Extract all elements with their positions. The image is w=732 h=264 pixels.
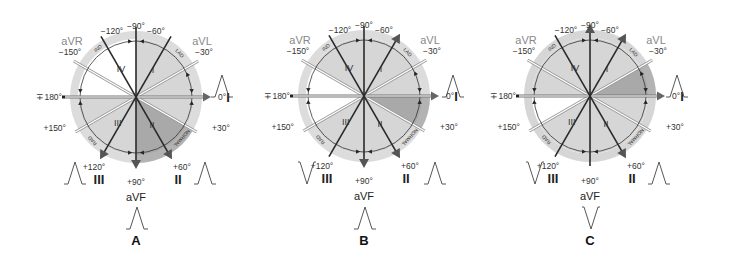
lead-label-iii: III [322, 171, 333, 186]
qrs-waveform-ii [648, 162, 670, 184]
lead-label-iii: III [94, 172, 105, 187]
qrs-waveform-ii [424, 162, 446, 184]
quadrant-label-ii: II [603, 119, 608, 129]
lead-label-avr: aVR [61, 35, 82, 47]
angle-label: −150° [59, 47, 82, 57]
quadrant-label-iii: III [342, 117, 350, 127]
panel-c: IVIIIIIIINDLADRADNORMAL−90°−60°−120°−30°… [490, 20, 688, 248]
lead-i-arrowhead [657, 92, 665, 101]
angle-label: −30° [649, 46, 667, 56]
angle-label: +120° [83, 162, 106, 172]
lead-i-arrowhead [203, 93, 211, 102]
panel-letter-b: B [359, 233, 368, 248]
qrs-waveform-ii [194, 162, 216, 184]
angle-label: −30° [423, 46, 441, 56]
angle-label: +90° [127, 177, 145, 187]
lead-label-i: I [226, 90, 230, 105]
angle-label: +60° [173, 162, 191, 172]
angle-label: ∓180° [490, 91, 516, 101]
angle-label: +30° [440, 122, 458, 132]
lead-label-ii: II [628, 171, 635, 186]
quadrant-label-iii: III [568, 117, 576, 127]
angle-label: +30° [212, 123, 230, 133]
quadrant-label-i: I [380, 64, 383, 74]
lead-label-iii: III [548, 171, 559, 186]
panel-a: IVIIIIIIINDLADRADNORMAL−90°−60°−120°−30°… [36, 21, 233, 248]
panel-letter-c: C [585, 233, 595, 248]
quadrant-label-iv: IV [571, 63, 580, 73]
lead-i-arrowhead [431, 92, 439, 101]
angle-label: −120° [101, 26, 124, 36]
angle-label: 0° [672, 91, 680, 101]
lead-label-avf: aVF [354, 190, 374, 202]
quadrant-label-ii: II [149, 120, 154, 130]
quadrant-label-iv: IV [117, 64, 126, 74]
angle-label: +60° [627, 161, 645, 171]
lead-i-tail [290, 95, 293, 98]
panel-b: IVIIIIIIINDLADRADNORMAL−90°−60°−120°−30°… [264, 20, 464, 248]
angle-label: −90° [581, 20, 599, 30]
angle-label: −120° [329, 25, 352, 35]
angle-label: −60° [147, 26, 165, 36]
angle-label: −30° [195, 47, 213, 57]
panel-letter-a: A [131, 233, 141, 248]
angle-label: +150° [43, 123, 66, 133]
quadrant-label-iv: IV [345, 63, 354, 73]
qrs-waveform-iii [298, 162, 316, 184]
lead-i-tail [62, 96, 65, 99]
lead-label-avl: aVL [192, 35, 212, 47]
qrs-waveform-avf [582, 207, 600, 229]
angle-label: 0° [218, 92, 226, 102]
quadrant-label-iii: III [114, 118, 122, 128]
angle-label: +30° [666, 122, 684, 132]
angle-label: +90° [581, 176, 599, 186]
qrs-waveform-avf [354, 207, 376, 229]
angle-label: +150° [497, 122, 520, 132]
qrs-waveform-avf [126, 207, 148, 229]
ecg-axis-figure: IVIIIIIIINDLADRADNORMAL−90°−60°−120°−30°… [0, 0, 732, 264]
angle-label: −120° [555, 25, 578, 35]
qrs-waveform-iii [526, 162, 544, 184]
lead-label-avr: aVR [515, 34, 536, 46]
lead-label-avl: aVL [420, 34, 440, 46]
quadrant-label-ii: II [377, 119, 382, 129]
angle-label: +90° [355, 176, 373, 186]
lead-label-avf: aVF [580, 190, 600, 202]
angle-label: +60° [401, 161, 419, 171]
lead-i-tail [516, 95, 519, 98]
angle-label: −150° [287, 46, 310, 56]
lead-arrowhead [359, 159, 369, 168]
angle-label: +120° [537, 161, 560, 171]
lead-label-ii: II [174, 172, 181, 187]
angle-label: −60° [375, 25, 393, 35]
lead-label-avl: aVL [646, 34, 666, 46]
angle-label: ∓180° [264, 91, 290, 101]
angle-label: −150° [513, 46, 536, 56]
angle-label: −90° [127, 21, 145, 31]
angle-label: −90° [355, 20, 373, 30]
quadrant-label-i: I [606, 64, 609, 74]
lead-label-avr: aVR [289, 34, 310, 46]
lead-label-avf: aVF [126, 191, 146, 203]
angle-label: +150° [271, 122, 294, 132]
angle-label: −60° [601, 25, 619, 35]
quadrant-label-i: I [152, 65, 155, 75]
hexaxial-diagrams: IVIIIIIIINDLADRADNORMAL−90°−60°−120°−30°… [0, 0, 732, 264]
angle-label: ∓180° [36, 92, 62, 102]
lead-label-ii: II [402, 171, 409, 186]
lead-arrowhead [131, 160, 141, 169]
lead-label-i: I [454, 89, 458, 104]
